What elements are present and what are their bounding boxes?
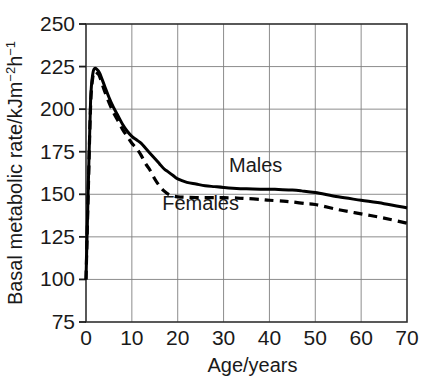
y-tick-label: 200 [40,97,75,120]
y-tick-label: 125 [40,225,75,248]
y-tick-label: 225 [40,55,75,78]
basal-metabolic-rate-chart: 010203040506070 75100125150175200225250 … [0,0,424,380]
x-tick-label: 0 [80,326,92,349]
series-label-males: Males [229,154,282,176]
x-tick-label: 10 [120,326,143,349]
y-tick-label: 100 [40,267,75,290]
x-tick-label: 60 [349,326,372,349]
x-tick-label: 50 [304,326,327,349]
y-tick-label: 150 [40,182,75,205]
x-axis-title: Age/years [207,354,297,376]
x-tick-label: 30 [212,326,235,349]
x-tick-label: 70 [395,326,418,349]
x-tick-label: 20 [166,326,189,349]
y-tick-label: 175 [40,140,75,163]
y-tick-label: 75 [52,310,75,333]
chart-container: 010203040506070 75100125150175200225250 … [0,0,424,380]
x-tick-label: 40 [258,326,281,349]
y-tick-label: 250 [40,12,75,35]
series-label-females: Females [162,192,239,214]
